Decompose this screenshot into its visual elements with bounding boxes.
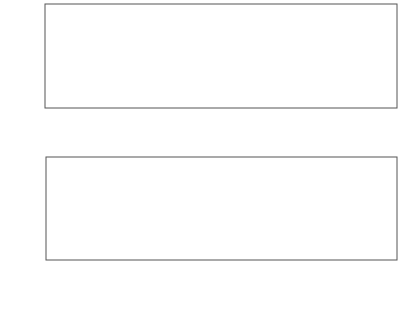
figure xyxy=(0,0,404,319)
plot-frame-bottom xyxy=(46,157,397,260)
time-domain-chart xyxy=(45,4,397,108)
plot-frame-top xyxy=(45,4,397,108)
frequency-domain-chart xyxy=(46,157,397,260)
